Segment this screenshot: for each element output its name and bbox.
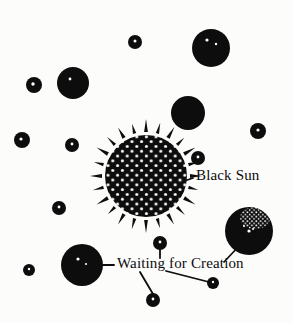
planet-highlight-right [225, 207, 273, 255]
illustration-canvas: Black Sun Waiting for Creation [0, 0, 294, 323]
planet-lower-left [61, 244, 103, 286]
leader-waiting-to-star-bottom-right [166, 271, 209, 282]
planet-mid-right [171, 96, 205, 130]
label-waiting-for-creation: Waiting for Creation [117, 256, 244, 271]
leader-waiting-to-star-bottom [140, 272, 153, 294]
planet-top-right [192, 29, 230, 67]
label-black-sun: Black Sun [196, 168, 259, 183]
planet-upper-left [57, 67, 89, 99]
black-sun-disc [105, 135, 187, 217]
celestial-bodies-svg [0, 0, 294, 323]
